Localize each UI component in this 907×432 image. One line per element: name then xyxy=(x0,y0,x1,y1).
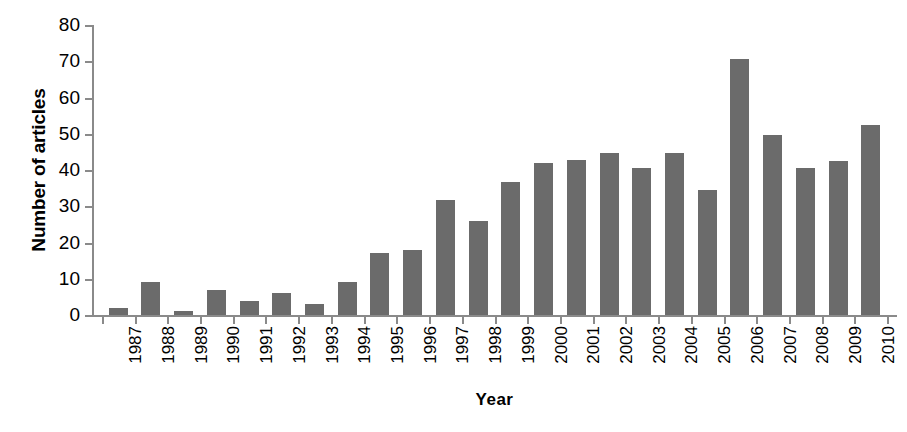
x-axis-tick-mark xyxy=(854,317,856,324)
x-axis-tick-mark xyxy=(822,317,824,324)
x-axis-tick-label: 2006 xyxy=(749,326,767,384)
bar xyxy=(305,304,324,315)
x-axis-tick-mark xyxy=(364,317,366,324)
y-axis-tick-mark xyxy=(85,98,92,100)
x-axis-tick-label: 1994 xyxy=(356,326,374,384)
y-axis-tick-mark xyxy=(85,25,92,27)
x-axis-tick-mark xyxy=(789,317,791,324)
plot-area xyxy=(92,25,897,315)
x-axis-tick-label: 1997 xyxy=(454,326,472,384)
bar xyxy=(632,168,651,315)
bar xyxy=(763,135,782,315)
bar xyxy=(501,182,520,315)
x-axis-tick-mark xyxy=(265,317,267,324)
x-axis-tick-mark xyxy=(593,317,595,324)
x-axis-tick-mark xyxy=(658,317,660,324)
y-axis-tick-mark xyxy=(85,61,92,63)
y-axis-tick-label: 0 xyxy=(42,305,80,324)
x-axis-tick-labels: 1987198819891990199119921993199419951996… xyxy=(92,326,897,384)
y-axis-tick-mark xyxy=(85,315,92,317)
x-axis-tick-mark xyxy=(135,317,137,324)
x-axis-tick-mark xyxy=(756,317,758,324)
x-axis-tick-mark xyxy=(462,317,464,324)
x-axis-tick-mark xyxy=(691,317,693,324)
x-axis-tick-label: 2008 xyxy=(814,326,832,384)
x-axis-tick-label: 2009 xyxy=(847,326,865,384)
y-axis-tick-mark xyxy=(85,243,92,245)
x-axis-tick-label: 1996 xyxy=(422,326,440,384)
y-axis-tick-mark xyxy=(85,134,92,136)
y-axis-tick-mark xyxy=(85,170,92,172)
y-axis-tick-label: 80 xyxy=(42,15,80,34)
x-axis-tick-label: 2003 xyxy=(651,326,669,384)
y-axis-tick-mark xyxy=(85,279,92,281)
bar xyxy=(436,200,455,315)
bar xyxy=(829,161,848,315)
x-axis-tick-label: 2002 xyxy=(618,326,636,384)
bar xyxy=(207,290,226,315)
bar xyxy=(174,311,193,315)
bar xyxy=(141,282,160,315)
x-axis-tick-mark xyxy=(527,317,529,324)
x-axis-tick-label: 2010 xyxy=(880,326,898,384)
bar xyxy=(338,282,357,315)
x-axis-tick-mark xyxy=(724,317,726,324)
x-axis-tick-label: 2005 xyxy=(716,326,734,384)
x-axis-tick-mark xyxy=(495,317,497,324)
y-axis-tick-label: 10 xyxy=(42,269,80,288)
bar xyxy=(109,308,128,315)
bar xyxy=(796,168,815,315)
x-axis-tick-mark xyxy=(331,317,333,324)
x-axis-tick-label: 1999 xyxy=(520,326,538,384)
x-axis-tick-label: 1998 xyxy=(487,326,505,384)
x-axis-title: Year xyxy=(92,390,897,410)
x-axis-tick-label: 1988 xyxy=(160,326,178,384)
x-axis-tick-mark xyxy=(102,317,104,324)
y-axis-tick-label: 40 xyxy=(42,160,80,179)
x-axis-tick-label: 1995 xyxy=(389,326,407,384)
bar-chart: Number of articles 01020304050607080 198… xyxy=(0,0,907,432)
bar xyxy=(861,125,880,315)
x-axis-tick-label: 1989 xyxy=(193,326,211,384)
x-axis-tick-mark xyxy=(396,317,398,324)
bar xyxy=(600,153,619,315)
x-axis-tick-mark xyxy=(429,317,431,324)
y-axis-tick-mark xyxy=(85,206,92,208)
y-axis-tick-label: 70 xyxy=(42,51,80,70)
bar xyxy=(240,301,259,316)
bar xyxy=(567,160,586,315)
x-axis-tick-mark xyxy=(233,317,235,324)
y-axis-tick-label: 50 xyxy=(42,124,80,143)
x-axis-tick-label: 2001 xyxy=(585,326,603,384)
y-axis-tick-label: 30 xyxy=(42,196,80,215)
x-axis-tick-mark xyxy=(167,317,169,324)
x-axis-tick-mark xyxy=(298,317,300,324)
bar xyxy=(730,59,749,315)
x-axis-tick-mark xyxy=(625,317,627,324)
y-axis-tick-label: 20 xyxy=(42,233,80,252)
x-axis-tick-label: 2007 xyxy=(782,326,800,384)
bar xyxy=(469,221,488,315)
x-axis-tick-label: 1993 xyxy=(324,326,342,384)
x-axis-tick-label: 1990 xyxy=(225,326,243,384)
bar xyxy=(665,153,684,315)
x-axis-tick-label: 2004 xyxy=(683,326,701,384)
bar xyxy=(403,250,422,315)
x-axis-tick-label: 1991 xyxy=(258,326,276,384)
x-axis-tick-label: 1987 xyxy=(127,326,145,384)
x-axis-tick-mark xyxy=(560,317,562,324)
x-axis-tick-mark xyxy=(887,317,889,324)
bar xyxy=(698,190,717,315)
y-axis-tick-labels: 01020304050607080 xyxy=(38,0,80,432)
x-axis-tick-mark xyxy=(200,317,202,324)
bar xyxy=(272,293,291,315)
bar xyxy=(370,253,389,315)
bar xyxy=(534,163,553,315)
y-axis-tick-label: 60 xyxy=(42,88,80,107)
x-axis-tick-label: 2000 xyxy=(553,326,571,384)
x-axis-tick-label: 1992 xyxy=(291,326,309,384)
